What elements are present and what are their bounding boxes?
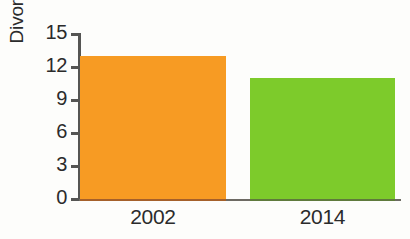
y-tick-mark-3: [71, 165, 79, 168]
bar-chart-figure: Divorces per 1000 15 12 9 6 3 0 2002 201…: [0, 0, 410, 239]
y-tick-label-6: 6: [33, 121, 67, 141]
y-tick-mark-12: [71, 66, 79, 69]
x-tick-label-2002: 2002: [80, 205, 226, 229]
y-tick-mark-15: [71, 33, 79, 36]
bar-2014: [250, 78, 395, 199]
y-tick-label-9: 9: [33, 88, 67, 108]
plot-area: [80, 34, 402, 199]
y-axis-title: Divorces per 1000: [2, 0, 32, 56]
y-tick-label-3: 3: [33, 154, 67, 174]
x-tick-label-2014: 2014: [250, 205, 395, 229]
y-tick-label-12: 12: [33, 55, 67, 75]
y-tick-mark-9: [71, 99, 79, 102]
y-tick-mark-0: [71, 198, 79, 201]
bar-2002: [80, 56, 226, 199]
y-tick-label-0: 0: [33, 187, 67, 207]
y-tick-label-15: 15: [33, 22, 67, 42]
y-tick-mark-6: [71, 132, 79, 135]
